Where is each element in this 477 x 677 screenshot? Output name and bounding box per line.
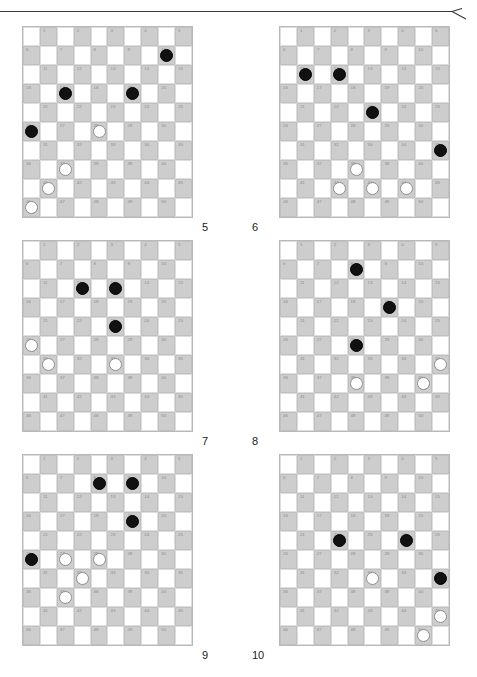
square-light-r4-c2[interactable] [40,84,57,103]
square-light-r8-c4[interactable] [74,374,91,393]
square-light-r7-c1[interactable] [23,355,40,374]
square-31[interactable]: 31 [40,141,57,160]
square-39[interactable]: 39 [381,160,398,179]
square-light-r7-c1[interactable] [280,569,297,588]
square-light-r8-c10[interactable] [175,160,192,179]
square-38[interactable]: 38 [91,374,108,393]
black-piece[interactable] [333,534,346,547]
square-47[interactable]: 47 [314,412,331,431]
square-light-r4-c6[interactable] [364,84,381,103]
square-48[interactable]: 48 [91,198,108,217]
square-light-r9-c9[interactable] [158,607,175,626]
square-48[interactable]: 48 [91,412,108,431]
black-piece[interactable] [333,68,346,81]
square-light-r3-c9[interactable] [158,493,175,512]
square-light-r1-c1[interactable] [23,27,40,46]
square-33[interactable]: 33 [364,355,381,374]
square-light-r4-c4[interactable] [331,84,348,103]
square-6[interactable]: 6 [280,474,297,493]
square-32[interactable]: 32 [331,141,348,160]
square-light-r2-c10[interactable] [432,474,449,493]
square-43[interactable]: 43 [107,393,124,412]
square-46[interactable]: 46 [280,412,297,431]
black-piece[interactable] [434,572,447,585]
square-41[interactable]: 41 [40,179,57,198]
square-light-r5-c1[interactable] [280,317,297,336]
black-piece[interactable] [126,477,139,490]
square-light-r6-c10[interactable] [432,550,449,569]
white-piece[interactable] [350,163,363,176]
square-23[interactable]: 23 [364,531,381,550]
square-37[interactable]: 37 [57,160,74,179]
square-37[interactable]: 37 [314,588,331,607]
square-light-r6-c8[interactable] [398,336,415,355]
white-piece[interactable] [76,572,89,585]
square-17[interactable]: 17 [57,84,74,103]
square-18[interactable]: 18 [91,298,108,317]
square-31[interactable]: 31 [297,355,314,374]
square-7[interactable]: 7 [57,260,74,279]
square-light-r1-c1[interactable] [280,27,297,46]
square-24[interactable]: 24 [141,103,158,122]
square-light-r2-c2[interactable] [297,474,314,493]
square-light-r8-c4[interactable] [331,588,348,607]
square-light-r1-c3[interactable] [57,27,74,46]
square-light-r10-c8[interactable] [141,198,158,217]
square-light-r5-c1[interactable] [280,103,297,122]
square-21[interactable]: 21 [40,317,57,336]
square-light-r2-c4[interactable] [74,474,91,493]
square-5[interactable]: 5 [432,241,449,260]
black-piece[interactable] [400,534,413,547]
square-24[interactable]: 24 [398,531,415,550]
square-15[interactable]: 15 [175,493,192,512]
square-12[interactable]: 12 [74,493,91,512]
square-36[interactable]: 36 [280,588,297,607]
square-light-r7-c3[interactable] [57,569,74,588]
square-42[interactable]: 42 [74,179,91,198]
square-10[interactable]: 10 [415,46,432,65]
square-light-r8-c2[interactable] [40,588,57,607]
square-45[interactable]: 45 [432,179,449,198]
square-light-r2-c10[interactable] [432,46,449,65]
square-18[interactable]: 18 [91,84,108,103]
square-light-r3-c9[interactable] [158,279,175,298]
square-light-r10-c10[interactable] [175,198,192,217]
white-piece[interactable] [400,182,413,195]
square-28[interactable]: 28 [348,122,365,141]
square-light-r2-c8[interactable] [398,46,415,65]
square-47[interactable]: 47 [57,198,74,217]
square-light-r10-c4[interactable] [331,198,348,217]
square-33[interactable]: 33 [107,141,124,160]
square-light-r2-c6[interactable] [107,474,124,493]
square-light-r3-c3[interactable] [57,279,74,298]
square-light-r1-c9[interactable] [415,241,432,260]
square-34[interactable]: 34 [398,355,415,374]
square-light-r6-c6[interactable] [107,550,124,569]
square-light-r3-c7[interactable] [381,65,398,84]
square-light-r9-c3[interactable] [57,393,74,412]
square-light-r7-c5[interactable] [91,569,108,588]
square-9[interactable]: 9 [124,46,141,65]
square-46[interactable]: 46 [23,626,40,645]
square-light-r7-c5[interactable] [348,141,365,160]
white-piece[interactable] [93,553,106,566]
square-light-r7-c7[interactable] [124,569,141,588]
square-light-r2-c4[interactable] [331,474,348,493]
square-41[interactable]: 41 [297,179,314,198]
square-light-r2-c10[interactable] [175,260,192,279]
square-45[interactable]: 45 [175,393,192,412]
square-23[interactable]: 23 [364,103,381,122]
square-light-r3-c5[interactable] [348,65,365,84]
square-6[interactable]: 6 [23,474,40,493]
square-46[interactable]: 46 [23,412,40,431]
square-light-r10-c8[interactable] [398,198,415,217]
white-piece[interactable] [93,125,106,138]
square-12[interactable]: 12 [331,279,348,298]
square-3[interactable]: 3 [107,241,124,260]
square-40[interactable]: 40 [158,588,175,607]
square-6[interactable]: 6 [280,46,297,65]
square-light-r3-c9[interactable] [415,279,432,298]
square-light-r4-c10[interactable] [432,298,449,317]
white-piece[interactable] [59,591,72,604]
square-light-r9-c3[interactable] [57,607,74,626]
